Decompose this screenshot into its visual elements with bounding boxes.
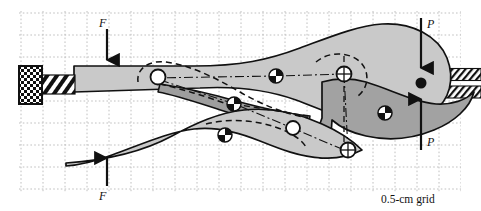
contact-point [416, 78, 427, 89]
pin-toggle-mid [227, 97, 241, 111]
force-label-F-upper: F [98, 16, 107, 30]
adjusting-screw [41, 75, 75, 94]
pin-lower-left [218, 128, 232, 142]
pin-jaw-right [378, 106, 392, 120]
pin-jaw-pivot [340, 142, 356, 158]
force-label-P-lower: P [426, 135, 435, 149]
pin-lower-mid [286, 121, 300, 135]
figure-canvas: F F P P 0.5-cm grid [0, 0, 481, 211]
force-label-P-upper: P [426, 17, 435, 31]
lower-handle [66, 109, 362, 166]
force-label-F-lower: F [98, 189, 107, 203]
pin-upper-right [336, 66, 352, 82]
adjusting-knob[interactable] [19, 66, 42, 104]
pin-upper-left [151, 70, 166, 85]
grid-scale-caption: 0.5-cm grid [381, 193, 435, 206]
pin-mid-upper [269, 69, 283, 83]
